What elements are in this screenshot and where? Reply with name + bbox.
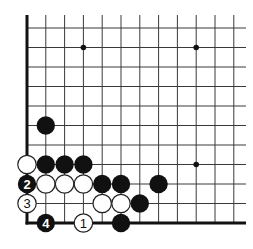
go-board: 2341 (0, 0, 253, 249)
white-stone (112, 194, 130, 212)
move-number-label: 1 (80, 216, 87, 231)
move-number-label: 4 (42, 216, 50, 231)
white-stone (74, 175, 92, 193)
star-point (193, 45, 199, 51)
board-grid (26, 15, 247, 225)
black-stone: 2 (18, 175, 36, 193)
black-stone: 4 (37, 214, 55, 232)
move-number-label: 2 (23, 177, 30, 192)
white-stone: 1 (74, 214, 92, 232)
stones-layer: 2341 (18, 116, 168, 232)
black-stone (74, 155, 92, 173)
white-stone (18, 155, 36, 173)
move-number-label: 3 (23, 196, 30, 211)
black-stone (37, 116, 55, 134)
white-stone: 3 (18, 194, 36, 212)
white-stone (37, 175, 55, 193)
black-stone (149, 175, 167, 193)
black-stone (93, 175, 111, 193)
white-stone (93, 194, 111, 212)
black-stone (112, 175, 130, 193)
star-point (193, 162, 199, 168)
star-point (81, 45, 87, 51)
black-stone (112, 214, 130, 232)
white-stone (55, 175, 73, 193)
black-stone (131, 194, 149, 212)
black-stone (55, 155, 73, 173)
black-stone (37, 155, 55, 173)
